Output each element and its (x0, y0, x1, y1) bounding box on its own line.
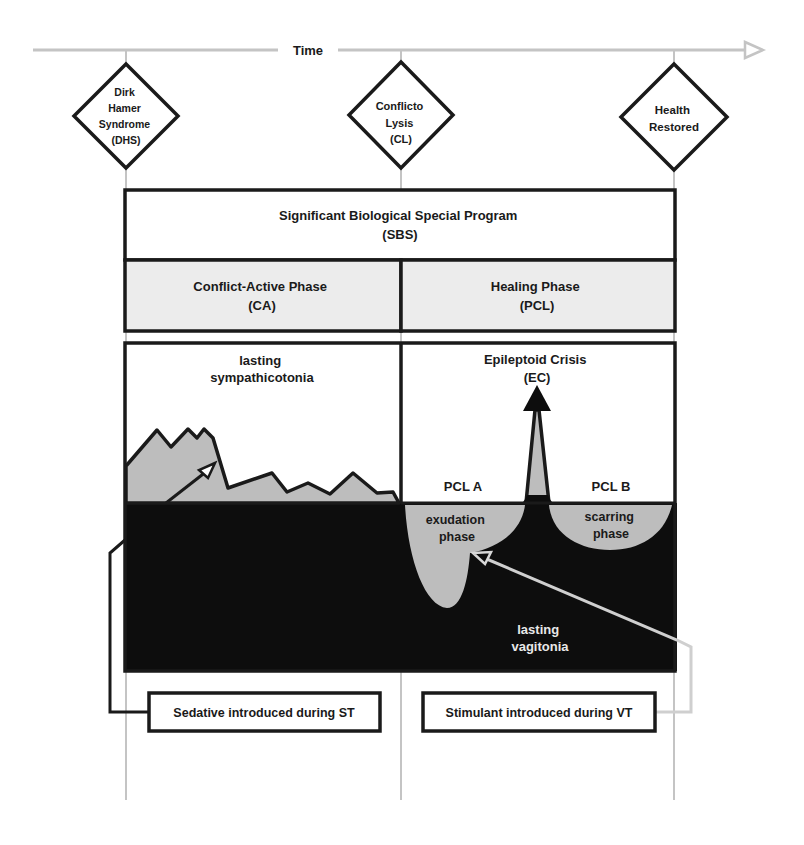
milestone-dhs: Dirk Hamer Syndrome (DHS) (74, 64, 178, 168)
milestone-health-restored: Health Restored (621, 64, 727, 170)
healing-phase-box (401, 260, 675, 331)
milestone-conflictolysis: Conflicto Lysis (CL) (349, 62, 453, 168)
diamond-icon (74, 64, 178, 168)
diamond-icon (349, 62, 453, 168)
time-axis: Time (33, 42, 763, 58)
time-arrow-icon (745, 42, 763, 58)
phase-boxes: Conflict-Active Phase (CA) Healing Phase… (125, 260, 675, 331)
time-label: Time (293, 43, 323, 58)
graph-panel: lasting sympathicotonia Epileptoid Crisi… (125, 343, 677, 671)
sbs-title: Significant Biological Special Program (279, 208, 517, 223)
conflict-active-phase-box (125, 260, 401, 331)
sbs-abbr: (SBS) (382, 227, 417, 242)
pcl-a-label: PCL A (444, 479, 483, 494)
diamond-icon (621, 64, 727, 170)
stimulant-note: Stimulant introduced during VT (423, 693, 655, 731)
svg-text:Stimulant introduced during VT: Stimulant introduced during VT (446, 706, 633, 720)
pcl-b-label: PCL B (592, 479, 631, 494)
svg-text:Sedative introduced during ST: Sedative introduced during ST (173, 706, 355, 720)
sbs-diagram: Time Dirk Hamer Syndrome (DHS) Conflicto… (0, 0, 804, 845)
sedative-note: Sedative introduced during ST (149, 693, 380, 731)
sbs-box: Significant Biological Special Program (… (125, 190, 675, 260)
